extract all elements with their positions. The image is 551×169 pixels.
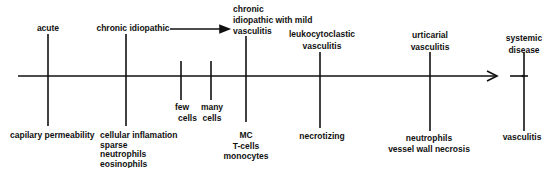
label-line: urticarial (411, 30, 450, 41)
label-mc-tcells-monocytes: MC T-cells monocytes (224, 130, 269, 162)
label-capillary-permeability: capilary permeability (10, 130, 95, 141)
label-line: leukocytoclastic (289, 29, 355, 40)
label-neutrophils-necrosis: neutrophils vessel wall necrosis (388, 133, 470, 154)
progression-arrowhead (220, 26, 229, 33)
label-line: cells (175, 113, 197, 124)
label-vasculitis: vasculitis (503, 132, 542, 143)
label-necrotizing: necrotizing (299, 131, 344, 142)
label-many-cells: many cells (201, 102, 223, 123)
label-line: disease (506, 45, 542, 56)
label-acute: acute (37, 23, 59, 34)
label-line: many (201, 102, 223, 113)
label-line: vasculitis (289, 41, 355, 52)
label-cellular-inflammation: cellular inflamation sparse neutrophils … (100, 131, 177, 168)
label-line: T-cells (224, 141, 269, 152)
label-urticarial: urticarial vasculitis (411, 30, 450, 52)
label-chronic-idiopathic: chronic idiopathic (96, 23, 169, 34)
label-line: MC (224, 130, 269, 141)
label-line: few (175, 102, 197, 113)
label-line: vasculitis (411, 42, 450, 53)
label-line: chronic (233, 4, 312, 15)
label-line: monocytes (224, 151, 269, 162)
label-line: cells (201, 113, 223, 124)
label-systemic: systemic disease (506, 33, 542, 55)
label-line: neutrophils (388, 133, 470, 144)
label-leukocytoclastic: leukocytoclastic vasculitis (289, 29, 355, 51)
axis-dash-tick (522, 75, 523, 77)
label-few-cells: few cells (175, 102, 197, 123)
label-line: vessel wall necrosis (388, 144, 470, 155)
label-line: systemic (506, 33, 542, 44)
label-line: idiopathic with mild (233, 15, 312, 26)
label-line: eosinophils (100, 160, 177, 169)
